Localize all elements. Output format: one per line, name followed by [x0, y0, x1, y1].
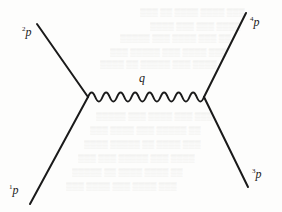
label-p1: 1p — [9, 184, 19, 196]
label-p2: 2p — [22, 26, 32, 38]
feynman-diagram: ▒▒▒ ▒▒ ▒▒▒▒ ▒▒▒▒ ▒▒▒ ▒▒▒▒ ▒▒▒ ▒▒▒ ▒▒▒▒ ▒… — [0, 0, 282, 212]
label-q: q — [139, 72, 145, 84]
external-line-p2 — [37, 24, 88, 97]
label-p3: 3p — [252, 168, 262, 180]
external-line-p4 — [204, 13, 246, 97]
external-line-p1 — [30, 97, 88, 204]
external-line-p3 — [204, 97, 248, 187]
propagator-q-wavy-line — [88, 93, 204, 102]
label-p4: 4p — [250, 16, 260, 28]
diagram-lines — [0, 0, 282, 212]
